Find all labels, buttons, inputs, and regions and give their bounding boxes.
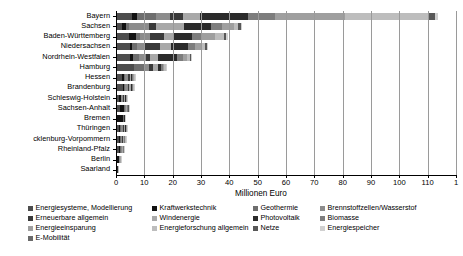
y-tick-mark <box>113 170 116 171</box>
bar-segment[interactable] <box>137 43 144 50</box>
bar-segment[interactable] <box>171 43 188 50</box>
y-tick-mark <box>113 88 116 89</box>
y-tick-mark <box>113 160 116 161</box>
legend-swatch-icon <box>28 226 33 231</box>
x-axis-tick-label: 100 <box>385 178 413 187</box>
stacked-bar[interactable] <box>116 54 192 61</box>
stacked-bar[interactable] <box>116 115 126 122</box>
y-tick-mark <box>113 16 116 17</box>
bar-segment[interactable] <box>116 84 123 91</box>
bar-segment[interactable] <box>248 13 275 20</box>
bar-segment[interactable] <box>166 64 167 71</box>
bar-segment[interactable] <box>156 13 170 20</box>
bar-segment[interactable] <box>116 64 134 71</box>
bar-segment[interactable] <box>241 23 242 30</box>
bar-segment[interactable] <box>435 13 438 20</box>
bar-segment[interactable] <box>160 43 171 50</box>
y-axis-label: Bremen <box>0 114 110 122</box>
legend-item[interactable]: Erneuerbare allgemein <box>28 213 108 222</box>
x-axis-tick-label: 20 <box>159 178 187 187</box>
legend-item[interactable]: Energieeinsparung <box>28 223 96 232</box>
y-axis-label: Saarland <box>0 165 110 173</box>
bar-segment[interactable] <box>183 13 200 20</box>
bar-segment[interactable] <box>345 13 427 20</box>
bar-segment[interactable] <box>116 54 130 61</box>
y-axis-label: Sachsen <box>0 22 110 30</box>
y-axis-label: Schleswig-Holstein <box>0 94 110 102</box>
legend-label: Biomasse <box>328 213 360 222</box>
legend-label: Erneuerbare allgemein <box>36 213 109 222</box>
y-tick-mark <box>113 119 116 120</box>
stacked-bar[interactable] <box>116 105 129 112</box>
bar-segment[interactable] <box>222 23 233 30</box>
stacked-bar[interactable] <box>116 13 438 20</box>
bar-segment[interactable] <box>192 33 201 40</box>
stacked-bar[interactable] <box>116 146 124 153</box>
x-axis-tick-label: 10 <box>130 178 158 187</box>
bar-segment[interactable] <box>184 23 211 30</box>
bar-segment[interactable] <box>173 33 193 40</box>
legend-item[interactable]: Geothermie <box>253 203 298 212</box>
bar-segment[interactable] <box>134 64 144 71</box>
bar-segment[interactable] <box>188 43 195 50</box>
stacked-bar[interactable] <box>116 43 207 50</box>
grid-line <box>229 11 230 175</box>
grid-line <box>258 11 259 175</box>
bar-segment[interactable] <box>150 54 159 61</box>
bar-segment[interactable] <box>200 13 248 20</box>
legend-swatch-icon <box>152 226 157 231</box>
stacked-bar[interactable] <box>116 84 134 91</box>
bar-segment[interactable] <box>156 23 184 30</box>
bar-segment[interactable] <box>129 33 136 40</box>
legend-item[interactable]: Brennstoffzellen/Wasserstof <box>320 203 417 212</box>
bar-segment[interactable] <box>191 54 192 61</box>
x-axis-title: Millionen Euro <box>235 189 287 198</box>
x-axis-tick-label: 30 <box>187 178 215 187</box>
legend-item[interactable]: Photovoltaik <box>253 213 300 222</box>
legend-swatch-icon <box>320 206 325 211</box>
grid-line <box>399 11 400 175</box>
bar-segment[interactable] <box>149 23 156 30</box>
legend-label: Geothermie <box>261 203 299 212</box>
legend-item[interactable]: Energiesysteme, Modellierung <box>28 203 132 212</box>
stacked-bar[interactable] <box>116 136 126 143</box>
bar-segment[interactable] <box>116 43 130 50</box>
legend-item[interactable]: Energieforschung allgemein <box>152 223 249 232</box>
bar-segment[interactable] <box>211 23 222 30</box>
bar-segment[interactable] <box>144 43 160 50</box>
legend-item[interactable]: Windenergie <box>152 213 200 222</box>
grid-line <box>456 11 457 175</box>
legend-item[interactable]: Energiespeicher <box>320 223 379 232</box>
bar-segment[interactable] <box>226 33 227 40</box>
stacked-bar[interactable] <box>116 74 135 81</box>
y-tick-mark <box>113 47 116 48</box>
stacked-bar[interactable] <box>116 23 242 30</box>
y-axis-label: Hessen <box>0 73 110 81</box>
bar-segment[interactable] <box>116 33 129 40</box>
y-tick-mark <box>113 139 116 140</box>
bar-segment[interactable] <box>164 33 173 40</box>
legend-item[interactable]: Biomasse <box>320 213 359 222</box>
bar-segment[interactable] <box>201 33 215 40</box>
y-tick-mark <box>113 149 116 150</box>
y-tick-mark <box>113 108 116 109</box>
legend-item[interactable]: Netze <box>253 223 279 232</box>
stacked-bar[interactable] <box>116 64 167 71</box>
bar-segment[interactable] <box>150 33 164 40</box>
bar-segment[interactable] <box>215 33 224 40</box>
bar-segment[interactable] <box>129 23 149 30</box>
stacked-bar[interactable] <box>116 125 127 132</box>
stacked-bar[interactable] <box>116 95 128 102</box>
grid-line <box>173 11 174 175</box>
y-tick-mark <box>113 78 116 79</box>
grid-line <box>371 11 372 175</box>
bar-segment[interactable] <box>137 13 155 20</box>
legend-label: Netze <box>261 223 280 232</box>
legend-item[interactable]: Kraftwerkstechnik <box>152 203 216 212</box>
bar-segment[interactable] <box>207 43 208 50</box>
grid-line <box>144 11 145 175</box>
x-axis-tick-label: 1 <box>442 178 463 187</box>
legend-item[interactable]: E-Mobilität <box>28 233 69 242</box>
bar-segment[interactable] <box>158 54 176 61</box>
bar-segment[interactable] <box>116 13 132 20</box>
